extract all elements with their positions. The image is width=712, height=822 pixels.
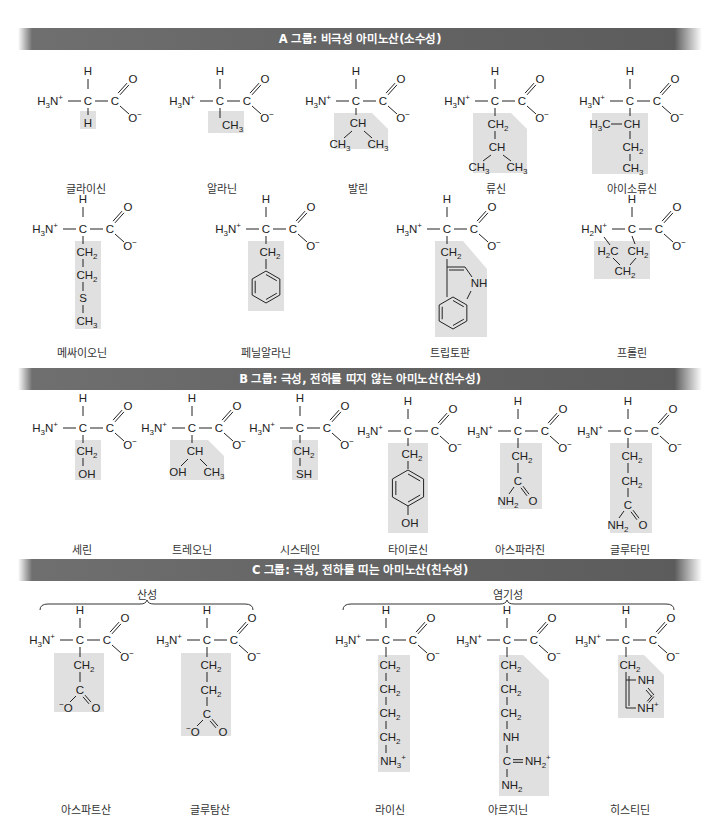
svg-text:C: C	[106, 223, 114, 235]
svg-text:O−​: O−​	[260, 110, 274, 124]
svg-text:C: C	[111, 95, 119, 107]
svg-text:NH: NH	[471, 277, 488, 289]
svg-text:O−​: O−​	[120, 649, 134, 663]
svg-text:C: C	[216, 95, 224, 107]
svg-text:O−​: O−​	[128, 110, 142, 124]
svg-text:C: C	[215, 422, 223, 434]
svg-text:H3​N+​: H3​N+​	[444, 93, 470, 110]
svg-text:H3​N+​: H3​N+​	[141, 420, 167, 437]
threonine-label: 트레오닌	[132, 541, 252, 557]
svg-text:O−​: O−​	[672, 238, 686, 252]
svg-text:O−​: O−​	[306, 238, 320, 252]
svg-text:O: O	[559, 403, 568, 415]
tryptophan-label: 트립토판	[390, 344, 510, 360]
asparagine-label: 아스파라진	[460, 541, 580, 557]
svg-text:H2​N+​: H2​N+​	[581, 221, 607, 238]
svg-text:H3​N+​: H3​N+​	[37, 93, 63, 110]
arginine-label: 아르지닌	[448, 801, 568, 817]
svg-text:C: C	[431, 425, 439, 437]
svg-text:O: O	[669, 403, 678, 415]
svg-text:C: C	[352, 95, 360, 107]
svg-text:C: C	[624, 499, 632, 511]
svg-text:C: C	[106, 422, 114, 434]
svg-text:OH: OH	[169, 466, 186, 478]
svg-text:O−​: O−​	[232, 437, 246, 451]
svg-text:H: H	[628, 193, 636, 205]
svg-text:H: H	[84, 117, 92, 129]
svg-text:O−​: O−​	[558, 440, 572, 454]
svg-text:C: C	[503, 755, 511, 767]
histidine-label: 히스티딘	[570, 801, 690, 817]
group-b-header: B 그룹: 극성, 전하를 띠지 않는 아미노산(친수성)	[18, 368, 702, 390]
svg-text:H: H	[382, 604, 390, 616]
svg-text:H3​N+​: H3​N+​	[357, 423, 383, 440]
svg-text:O: O	[673, 201, 682, 213]
svg-text:C: C	[470, 223, 478, 235]
svg-text:C: C	[649, 634, 657, 646]
svg-text:C: C	[622, 634, 630, 646]
svg-text:C: C	[653, 95, 661, 107]
svg-text:O−​: O−​	[123, 437, 137, 451]
svg-text:O: O	[233, 400, 242, 412]
svg-text:H3​N+​: H3​N+​	[335, 632, 361, 649]
svg-text:O−​: O−​	[247, 649, 261, 663]
svg-text:H: H	[262, 193, 270, 205]
svg-text:H3​N+​: H3​N+​	[29, 632, 55, 649]
svg-text:O−​: O−​	[448, 440, 462, 454]
svg-text:C: C	[655, 223, 663, 235]
svg-text:H: H	[352, 65, 360, 77]
svg-text:H: H	[443, 193, 451, 205]
svg-text:C: C	[243, 95, 251, 107]
svg-text:H: H	[296, 392, 304, 404]
svg-text:OH: OH	[401, 517, 418, 529]
serine-label: 세린	[22, 541, 142, 557]
svg-text:H3​N+​: H3​N+​	[396, 221, 422, 238]
svg-text:O−​: O−​	[426, 649, 440, 663]
svg-text:C: C	[379, 95, 387, 107]
svg-text:C: C	[79, 422, 87, 434]
svg-text:C: C	[628, 223, 636, 235]
svg-text:H3​N+​: H3​N+​	[579, 93, 605, 110]
svg-text:C: C	[624, 425, 632, 437]
svg-text:H3​N+​: H3​N+​	[32, 221, 58, 238]
svg-text:C: C	[409, 634, 417, 646]
svg-text:C: C	[84, 95, 92, 107]
svg-text:H3​N+​: H3​N+​	[156, 632, 182, 649]
svg-text:CH: CH	[624, 118, 641, 130]
svg-text:C: C	[404, 425, 412, 437]
svg-text:C: C	[514, 475, 522, 487]
svg-text:O: O	[219, 726, 228, 738]
svg-text:C: C	[203, 634, 211, 646]
svg-text:O: O	[341, 400, 350, 412]
svg-text:H: H	[79, 392, 87, 404]
aspartate-label: 아스파트산	[26, 801, 146, 817]
svg-text:H: H	[76, 604, 84, 616]
glutamine-label: 글루타민	[570, 541, 690, 557]
svg-text:H3​N+​: H3​N+​	[467, 423, 493, 440]
svg-text:H: H	[216, 65, 224, 77]
valine-label: 발린	[298, 180, 418, 196]
svg-text:C: C	[514, 425, 522, 437]
svg-text:O: O	[307, 201, 316, 213]
svg-text:O: O	[548, 612, 557, 624]
svg-text:O: O	[427, 612, 436, 624]
svg-text:H3​N+​: H3​N+​	[575, 632, 601, 649]
basic-brace	[0, 600, 712, 620]
svg-text:CH: CH	[350, 117, 367, 129]
methionine-label: 메싸이오닌	[22, 344, 142, 360]
svg-text:C: C	[626, 95, 634, 107]
svg-text:O: O	[488, 201, 497, 213]
svg-text:C: C	[651, 425, 659, 437]
svg-text:C: C	[76, 634, 84, 646]
svg-text:C: C	[323, 422, 331, 434]
svg-text:H: H	[491, 65, 499, 77]
svg-text:C: C	[230, 634, 238, 646]
svg-text:H: H	[514, 395, 522, 407]
svg-text:O: O	[529, 495, 538, 507]
svg-text:O−​: O−​	[340, 437, 354, 451]
svg-text:O: O	[129, 73, 138, 85]
proline-label: 프롤린	[572, 344, 692, 360]
svg-text:C: C	[79, 223, 87, 235]
lysine-label: 라이신	[330, 801, 450, 817]
svg-text:O: O	[397, 73, 406, 85]
